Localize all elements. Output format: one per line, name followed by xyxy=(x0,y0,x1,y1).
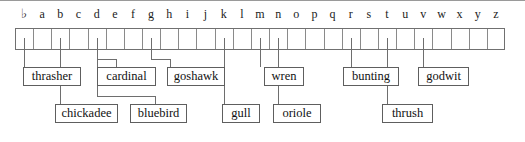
cell-divider xyxy=(233,29,234,49)
index-label-c: c xyxy=(69,6,87,22)
cell-divider xyxy=(324,29,325,49)
cell-divider xyxy=(33,29,34,49)
connector-stem-wren xyxy=(260,38,261,67)
cell-divider xyxy=(378,29,379,49)
index-label-w: w xyxy=(432,6,450,22)
label-text: thrush xyxy=(392,106,423,120)
cell-divider xyxy=(196,29,197,49)
cell-divider xyxy=(142,29,143,49)
label-text: wren xyxy=(272,69,297,83)
index-label-b: b xyxy=(51,6,69,22)
index-label-y: y xyxy=(469,6,487,22)
index-label-t: t xyxy=(378,6,396,22)
cell-divider xyxy=(178,29,179,49)
index-label-k: k xyxy=(215,6,233,22)
label-text: thrasher xyxy=(32,69,72,83)
index-label-j: j xyxy=(196,6,214,22)
label-text: gull xyxy=(231,106,250,120)
connector-stem-godwit xyxy=(423,38,424,67)
cell-divider xyxy=(396,29,397,49)
index-label-f: f xyxy=(124,6,142,22)
index-label-z: z xyxy=(487,6,505,22)
label-text: goshawk xyxy=(174,69,218,83)
index-label-e: e xyxy=(106,6,124,22)
label-box-bunting[interactable]: bunting xyxy=(343,67,399,86)
cell-divider xyxy=(124,29,125,49)
index-letter-row: ♭abcdefghijklmnopqrstuvwxyz xyxy=(15,6,505,22)
index-label-m: m xyxy=(251,6,269,22)
cell-divider xyxy=(487,29,488,49)
cell-divider xyxy=(251,29,252,49)
label-text: chickadee xyxy=(62,106,112,120)
index-label-x: x xyxy=(451,6,469,22)
cell-divider xyxy=(215,29,216,49)
connector-drop-bluebird xyxy=(155,96,156,104)
cell-divider xyxy=(432,29,433,49)
label-text: bluebird xyxy=(138,106,180,120)
cell-divider xyxy=(269,29,270,49)
cell-divider xyxy=(106,29,107,49)
label-box-goshawk[interactable]: goshawk xyxy=(167,67,225,86)
label-box-chickadee[interactable]: chickadee xyxy=(55,104,118,123)
diagram-canvas: ♭abcdefghijklmnopqrstuvwxyz thrashercard… xyxy=(0,0,525,142)
index-label-i: i xyxy=(178,6,196,22)
index-label-p: p xyxy=(305,6,323,22)
index-label-o: o xyxy=(287,6,305,22)
index-label-n: n xyxy=(269,6,287,22)
connector-elbow-goshawk xyxy=(151,59,170,60)
connector-drop-goshawk xyxy=(170,59,171,67)
cell-divider xyxy=(360,29,361,49)
label-box-wren[interactable]: wren xyxy=(264,67,304,86)
index-label-d: d xyxy=(88,6,106,22)
label-box-bluebird[interactable]: bluebird xyxy=(130,104,187,123)
index-label-g: g xyxy=(142,6,160,22)
connector-stem-thrasher xyxy=(24,38,25,67)
index-label-v: v xyxy=(414,6,432,22)
index-label-u: u xyxy=(396,6,414,22)
label-box-godwit[interactable]: godwit xyxy=(418,67,469,86)
cell-divider xyxy=(469,29,470,49)
index-label-blank: ♭ xyxy=(15,6,33,22)
label-box-thrush[interactable]: thrush xyxy=(382,104,433,123)
cell-divider xyxy=(451,29,452,49)
index-label-l: l xyxy=(233,6,251,22)
label-box-oriole[interactable]: oriole xyxy=(273,104,321,123)
label-text: godwit xyxy=(426,69,461,83)
label-text: cardinal xyxy=(106,69,146,83)
index-label-a: a xyxy=(33,6,51,22)
connector-drop-cardinal xyxy=(116,59,117,67)
label-box-gull[interactable]: gull xyxy=(222,104,260,123)
label-text: oriole xyxy=(282,106,311,120)
cell-divider xyxy=(88,29,89,49)
cell-divider xyxy=(305,29,306,49)
index-label-r: r xyxy=(342,6,360,22)
connector-stem-goshawk xyxy=(151,38,152,59)
cell-divider xyxy=(69,29,70,49)
label-text: bunting xyxy=(352,69,390,83)
cell-divider xyxy=(342,29,343,49)
cell-divider xyxy=(287,29,288,49)
cell-divider xyxy=(51,29,52,49)
cell-divider xyxy=(414,29,415,49)
connector-elbow-cardinal xyxy=(97,59,116,60)
index-label-q: q xyxy=(324,6,342,22)
index-label-h: h xyxy=(160,6,178,22)
top-rule xyxy=(0,0,525,1)
cell-divider xyxy=(160,29,161,49)
label-box-cardinal[interactable]: cardinal xyxy=(97,67,156,86)
connector-elbow-bluebird xyxy=(97,96,155,97)
index-label-s: s xyxy=(360,6,378,22)
label-box-thrasher[interactable]: thrasher xyxy=(23,67,81,86)
connector-stem-bunting xyxy=(351,38,352,67)
